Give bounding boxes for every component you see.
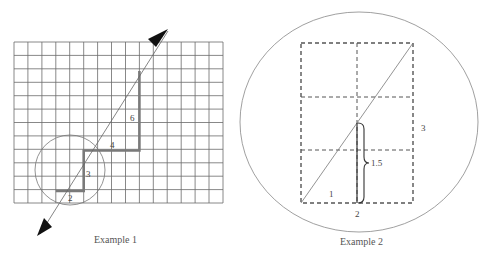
right-height-label: 3 [421,123,426,133]
arrowhead-down-icon [37,218,52,236]
example-1-grid [14,42,223,203]
step-label-3: 3 [86,169,91,179]
example-2-caption: Example 2 [340,236,383,247]
bottom-segment-label: 1 [329,189,334,199]
step-label-4: 4 [110,140,115,150]
example-1-caption: Example 1 [94,234,137,245]
brace-value-label: 1.5 [371,158,383,168]
arrowhead-up-icon [148,29,168,47]
step-label-2: 2 [68,193,73,203]
diagram-canvas: 2 3 4 6 Example 1 1.5 1 2 3 Example 2 [0,0,486,260]
bottom-width-label: 2 [355,209,360,219]
step-label-6: 6 [130,113,135,123]
example-2-outer-circle [240,12,478,232]
curly-brace-icon [358,123,369,203]
